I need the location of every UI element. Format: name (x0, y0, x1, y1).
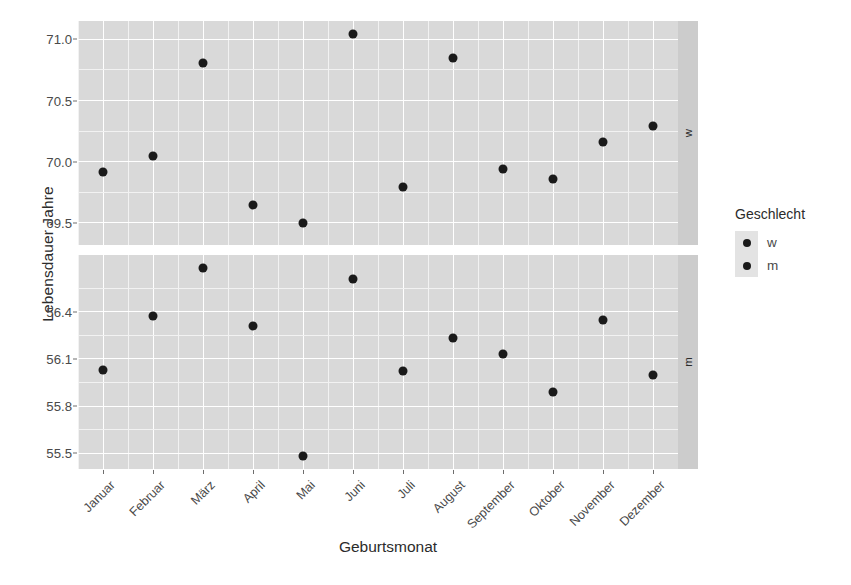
y-axis-tick-label: 69.5 (26, 215, 72, 230)
x-axis-tick-label: November (567, 478, 618, 529)
data-point (299, 218, 308, 227)
x-axis-tick-label: Mai (294, 478, 318, 502)
circle-marker-icon (743, 239, 751, 247)
y-axis-tick-label: 55.8 (26, 399, 72, 414)
legend-item-w[interactable]: w (735, 231, 805, 254)
facet-strip-w: w (678, 21, 698, 245)
data-point (599, 138, 608, 147)
x-axis-tick-mark (253, 470, 254, 474)
grid-line-vertical-minor (628, 21, 629, 245)
legend-key-m (735, 254, 758, 277)
legend-title: Geschlecht (735, 206, 805, 222)
x-axis-title: Geburtsmonat (78, 538, 698, 556)
x-axis-tick-mark (353, 470, 354, 474)
data-point (149, 312, 158, 321)
x-axis-tick-label: Juli (395, 478, 418, 501)
grid-line-vertical (253, 21, 254, 245)
data-point (399, 183, 408, 192)
x-axis-tick-label: Februar (127, 478, 168, 519)
data-point (249, 321, 258, 330)
data-point (149, 151, 158, 160)
grid-line-horizontal-minor (78, 192, 678, 193)
y-axis-tick-mark (73, 453, 77, 454)
grid-line-horizontal-minor (78, 131, 678, 132)
grid-line-vertical-minor (178, 21, 179, 245)
x-axis-tick-label: März (188, 478, 218, 508)
grid-line-vertical-minor (528, 21, 529, 245)
grid-line-horizontal-minor (78, 288, 678, 289)
grid-line-horizontal (78, 311, 678, 312)
legend: Geschlecht w m (735, 206, 805, 277)
y-axis-tick-mark (73, 311, 77, 312)
y-axis-tick-mark (73, 406, 77, 407)
x-axis-tick-mark (653, 470, 654, 474)
grid-line-vertical-minor (378, 21, 379, 245)
data-point (349, 274, 358, 283)
x-axis-tick-mark (203, 470, 204, 474)
data-point (549, 174, 558, 183)
data-point (349, 30, 358, 39)
grid-line-vertical (353, 21, 354, 245)
data-point (99, 167, 108, 176)
data-point (99, 365, 108, 374)
data-point (449, 53, 458, 62)
y-axis-tick-label: 70.5 (26, 93, 72, 108)
x-axis-tick-mark (553, 470, 554, 474)
legend-key-w (735, 231, 758, 254)
grid-line-vertical (403, 21, 404, 245)
x-axis-tick-label: Januar (81, 478, 118, 515)
y-axis-tick-mark (73, 358, 77, 359)
x-axis-tick-mark (103, 470, 104, 474)
x-axis-tick-mark (503, 470, 504, 474)
x-axis-tick-mark (303, 470, 304, 474)
facet-panel-w (78, 21, 678, 245)
grid-line-vertical-minor (278, 21, 279, 245)
data-point (199, 58, 208, 67)
grid-line-horizontal-minor (78, 382, 678, 383)
facet-panel-m (78, 255, 678, 469)
y-axis-tick-mark (73, 100, 77, 101)
x-axis-tick-label: Dezember (617, 478, 668, 529)
facet-strip-m: m (678, 255, 698, 469)
data-point (599, 315, 608, 324)
x-axis-tick-label: August (430, 478, 468, 516)
x-axis-tick-label: Oktober (526, 478, 568, 520)
grid-line-horizontal (78, 453, 678, 454)
y-axis-tick-label: 55.5 (26, 446, 72, 461)
x-axis-tick-label: Juni (342, 478, 368, 504)
grid-line-vertical-minor (428, 21, 429, 245)
grid-line-vertical-minor (228, 21, 229, 245)
grid-line-vertical (603, 21, 604, 245)
y-axis-tick-label: 56.1 (26, 351, 72, 366)
grid-line-horizontal (78, 358, 678, 359)
y-axis-tick-mark (73, 222, 77, 223)
grid-line-horizontal-minor (78, 69, 678, 70)
grid-line-vertical (553, 21, 554, 245)
data-point (499, 165, 508, 174)
facet-strip-label-w: w (682, 129, 694, 137)
facet-strip-label-m: m (682, 357, 694, 367)
data-point (449, 334, 458, 343)
grid-line-horizontal-minor (78, 429, 678, 430)
grid-line-horizontal (78, 161, 678, 162)
grid-line-vertical (303, 21, 304, 245)
grid-line-horizontal (78, 406, 678, 407)
grid-line-vertical-minor (128, 21, 129, 245)
grid-line-horizontal (78, 100, 678, 101)
grid-line-vertical (503, 21, 504, 245)
legend-label-m: m (767, 258, 778, 273)
grid-line-vertical (103, 21, 104, 245)
data-point (199, 263, 208, 272)
data-point (399, 367, 408, 376)
grid-line-vertical-minor (478, 21, 479, 245)
circle-marker-icon (743, 262, 751, 270)
legend-item-m[interactable]: m (735, 254, 805, 277)
data-point (649, 370, 658, 379)
x-axis-tick-label: April (240, 478, 268, 506)
grid-line-horizontal (78, 222, 678, 223)
data-point (299, 452, 308, 461)
x-axis-tick-mark (603, 470, 604, 474)
x-axis-tick-mark (403, 470, 404, 474)
grid-line-vertical-minor (78, 21, 79, 245)
grid-line-horizontal (78, 39, 678, 40)
